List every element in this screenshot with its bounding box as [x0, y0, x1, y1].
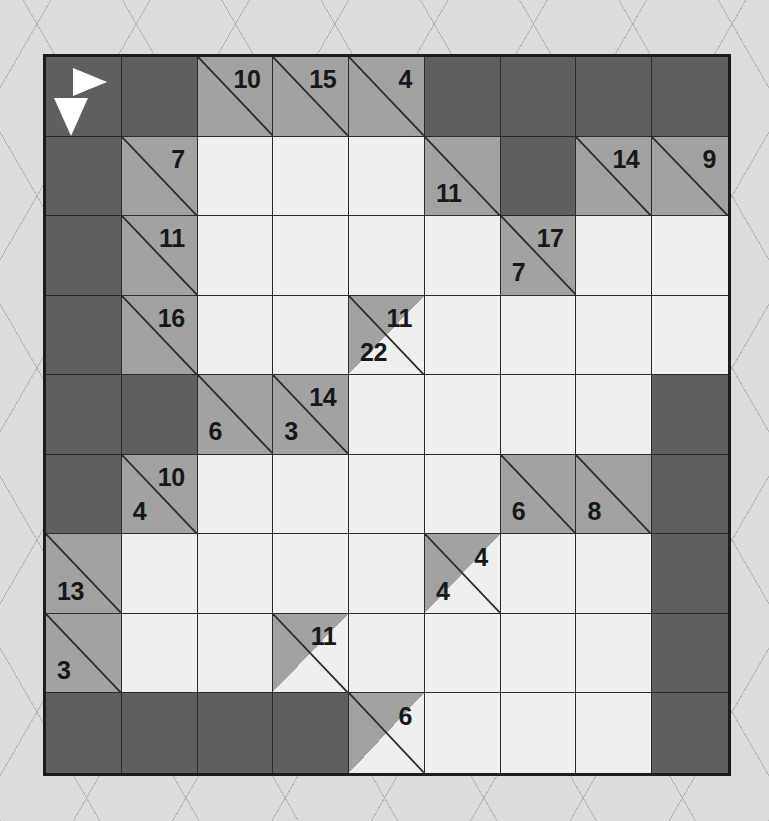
entry-cell-r4c4[interactable] [273, 296, 349, 376]
entry-cell-r7c3[interactable] [198, 534, 274, 614]
clue-cell-r3c7: 177 [501, 216, 577, 296]
entry-cell-r4c6[interactable] [425, 296, 501, 376]
clue-cell-r7c6: 44 [425, 534, 501, 614]
clue-diagonal-icon [122, 137, 197, 216]
blocked-cell-r6c9 [652, 455, 728, 535]
entry-wedge[interactable] [349, 693, 424, 773]
entry-cell-r6c6[interactable] [425, 455, 501, 535]
entry-cell-r3c4[interactable] [273, 216, 349, 296]
clue-cell-r4c2: 16 [122, 296, 198, 376]
entry-cell-r9c8[interactable] [576, 693, 652, 773]
clue-cell-r6c8: 8 [576, 455, 652, 535]
blocked-cell-r3c1 [46, 216, 122, 296]
entry-cell-r8c6[interactable] [425, 614, 501, 694]
arrow-down-icon [54, 98, 88, 136]
entry-cell-r4c9[interactable] [652, 296, 728, 376]
entry-cell-r3c3[interactable] [198, 216, 274, 296]
arrow-right-icon [73, 68, 107, 96]
entry-cell-r4c7[interactable] [501, 296, 577, 376]
clue-cell-r3c2: 11 [122, 216, 198, 296]
clue-cell-r2c6: 11 [425, 137, 501, 217]
entry-cell-r9c6[interactable] [425, 693, 501, 773]
entry-cell-r8c3[interactable] [198, 614, 274, 694]
clue-cell-r6c2: 104 [122, 455, 198, 535]
blocked-cell-r1c6 [425, 57, 501, 137]
clue-down-r3c2: 11 [159, 226, 184, 251]
clue-down-r1c5: 4 [398, 67, 411, 92]
clue-across-r5c3: 6 [209, 419, 222, 444]
entry-cell-r5c7[interactable] [501, 375, 577, 455]
clue-cell-r6c7: 6 [501, 455, 577, 535]
blocked-cell-r9c9 [652, 693, 728, 773]
clue-across-r4c5: 22 [360, 339, 387, 364]
entry-cell-r7c5[interactable] [349, 534, 425, 614]
blocked-cell-r9c4 [273, 693, 349, 773]
entry-cell-r3c8[interactable] [576, 216, 652, 296]
clue-cell-r1c5: 4 [349, 57, 425, 137]
clue-cell-r1c3: 10 [198, 57, 274, 137]
entry-cell-r2c3[interactable] [198, 137, 274, 217]
clue-down-r3c7: 17 [537, 226, 564, 251]
entry-cell-r4c8[interactable] [576, 296, 652, 376]
entry-cell-r3c6[interactable] [425, 216, 501, 296]
clue-down-r7c6: 4 [474, 544, 487, 569]
entry-cell-r7c4[interactable] [273, 534, 349, 614]
entry-cell-r5c5[interactable] [349, 375, 425, 455]
blocked-cell-r7c9 [652, 534, 728, 614]
entry-cell-r6c4[interactable] [273, 455, 349, 535]
clue-cell-r1c4: 15 [273, 57, 349, 137]
blocked-cell-r4c1 [46, 296, 122, 376]
entry-cell-r2c5[interactable] [349, 137, 425, 217]
clue-across-r6c8: 8 [587, 499, 600, 524]
clue-across-r6c7: 6 [512, 499, 525, 524]
entry-cell-r6c5[interactable] [349, 455, 425, 535]
entry-cell-r7c8[interactable] [576, 534, 652, 614]
entry-cell-r5c8[interactable] [576, 375, 652, 455]
blocked-cell-r9c3 [198, 693, 274, 773]
entry-cell-r6c3[interactable] [198, 455, 274, 535]
clue-across-r2c6: 11 [436, 180, 461, 205]
entry-cell-r3c9[interactable] [652, 216, 728, 296]
entry-cell-r7c2[interactable] [122, 534, 198, 614]
entry-cell-r4c3[interactable] [198, 296, 274, 376]
legend-arrows [46, 57, 121, 136]
clue-across-r7c6: 4 [436, 578, 449, 603]
blocked-cell-r5c1 [46, 375, 122, 455]
clue-down-r2c2: 7 [171, 146, 184, 171]
blocked-cell-r9c1 [46, 693, 122, 773]
entry-cell-r5c6[interactable] [425, 375, 501, 455]
clue-down-r9c5: 6 [398, 704, 411, 729]
blocked-cell-r8c9 [652, 614, 728, 694]
clue-down-r8c4: 11 [311, 624, 336, 649]
blocked-cell-r2c7 [501, 137, 577, 217]
clue-cell-r2c8: 14 [576, 137, 652, 217]
blocked-cell-r1c2 [122, 57, 198, 137]
clue-across-r7c1: 13 [57, 578, 84, 603]
entry-cell-r8c7[interactable] [501, 614, 577, 694]
clue-cell-r2c9: 9 [652, 137, 728, 217]
kakuro-grid[interactable]: 101547111491117716112261431046813443116 [43, 54, 731, 776]
entry-cell-r7c7[interactable] [501, 534, 577, 614]
clue-down-r4c2: 16 [158, 305, 185, 330]
clue-across-r5c4: 3 [284, 419, 297, 444]
clue-across-r6c2: 4 [133, 499, 146, 524]
entry-cell-r9c7[interactable] [501, 693, 577, 773]
clue-diagonal-icon [652, 137, 728, 216]
clue-down-r1c3: 10 [234, 67, 261, 92]
blocked-cell-r5c9 [652, 375, 728, 455]
clue-cell-r2c2: 7 [122, 137, 198, 217]
entry-cell-r8c2[interactable] [122, 614, 198, 694]
clue-cell-r4c5: 1122 [349, 296, 425, 376]
clue-cell-r8c1: 3 [46, 614, 122, 694]
clue-cell-r7c1: 13 [46, 534, 122, 614]
entry-cell-r8c5[interactable] [349, 614, 425, 694]
blocked-cell-r9c2 [122, 693, 198, 773]
clue-down-r1c4: 15 [309, 67, 336, 92]
entry-cell-r2c4[interactable] [273, 137, 349, 217]
clue-down-r2c8: 14 [612, 146, 639, 171]
blocked-cell-r6c1 [46, 455, 122, 535]
entry-cell-r3c5[interactable] [349, 216, 425, 296]
clue-across-r8c1: 3 [57, 658, 70, 683]
blocked-cell-r1c8 [576, 57, 652, 137]
entry-cell-r8c8[interactable] [576, 614, 652, 694]
